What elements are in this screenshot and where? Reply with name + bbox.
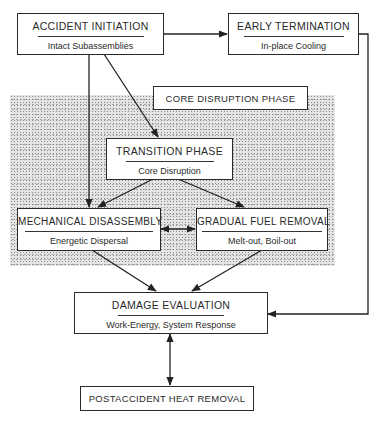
region-label: CORE DISRUPTION PHASE bbox=[154, 92, 307, 105]
arrow-transition-to-gradual bbox=[178, 179, 244, 207]
node-postaccident-heat-removal: POSTACCIDENT HEAT REMOVAL bbox=[80, 386, 254, 411]
node-transition-phase: TRANSITION PHASE Core Disruption bbox=[106, 138, 233, 180]
node-title: MECHANICAL DISASSEMBLY bbox=[18, 215, 160, 228]
node-accident-initiation: ACCIDENT INITIATION Intact Subassemblies bbox=[17, 13, 164, 55]
arrow-transition-to-mechanical bbox=[98, 179, 153, 207]
divider bbox=[202, 231, 322, 232]
divider bbox=[38, 36, 144, 37]
node-early-termination: EARLY TERMINATION In-place Cooling bbox=[228, 13, 359, 55]
divider bbox=[126, 161, 214, 162]
node-subtitle: In-place Cooling bbox=[229, 40, 358, 52]
node-title: EARLY TERMINATION bbox=[229, 20, 358, 33]
arrow-termination-to-damage bbox=[268, 34, 368, 314]
node-subtitle: Energetic Dispersal bbox=[18, 235, 160, 247]
node-damage-evaluation: DAMAGE EVALUATION Work-Energy, System Re… bbox=[74, 292, 268, 334]
node-title: TRANSITION PHASE bbox=[107, 145, 232, 158]
node-subtitle: Work-Energy, System Response bbox=[75, 319, 267, 331]
node-title: GRADUAL FUEL REMOVAL bbox=[197, 215, 327, 228]
divider bbox=[118, 315, 224, 316]
node-mechanical-disassembly: MECHANICAL DISASSEMBLY Energetic Dispers… bbox=[17, 208, 161, 251]
node-subtitle: Core Disruption bbox=[107, 165, 232, 177]
divider bbox=[25, 231, 153, 232]
node-subtitle: Intact Subassemblies bbox=[18, 40, 163, 52]
node-title: ACCIDENT INITIATION bbox=[18, 20, 163, 33]
arrow-gradual-to-damage bbox=[192, 250, 262, 291]
node-subtitle: Melt-out, Boil-out bbox=[197, 235, 327, 247]
node-title: POSTACCIDENT HEAT REMOVAL bbox=[81, 392, 253, 405]
node-title: DAMAGE EVALUATION bbox=[75, 299, 267, 312]
arrow-mechanical-to-damage bbox=[92, 250, 156, 291]
region-label-box: CORE DISRUPTION PHASE bbox=[153, 86, 308, 110]
divider bbox=[244, 36, 344, 37]
arrow-initiation-to-transition bbox=[104, 54, 158, 137]
node-gradual-fuel-removal: GRADUAL FUEL REMOVAL Melt-out, Boil-out bbox=[196, 208, 328, 251]
